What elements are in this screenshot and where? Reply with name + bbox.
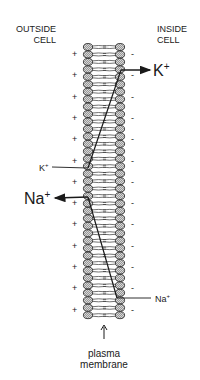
svg-text:-: -: [131, 177, 134, 187]
svg-text:+: +: [72, 49, 77, 59]
svg-text:+: +: [72, 283, 77, 293]
svg-text:+: +: [72, 70, 77, 80]
svg-text:-: -: [131, 198, 134, 208]
svg-text:+: +: [72, 219, 77, 229]
svg-text:+: +: [72, 262, 77, 272]
ion-charge: +: [44, 189, 50, 200]
membrane-diagram: OUTSIDE CELL INSIDE CELL +-+-+-+-+-+-+-+…: [0, 0, 200, 380]
svg-text:+: +: [72, 156, 77, 166]
svg-text:-: -: [131, 305, 134, 315]
svg-text:+: +: [72, 241, 77, 251]
ion-charge: +: [167, 293, 171, 299]
svg-text:-: -: [131, 113, 134, 123]
ion-symbol: Na: [155, 294, 167, 304]
caption-line2: membrane: [64, 360, 144, 370]
svg-text:-: -: [131, 92, 134, 102]
svg-text:+: +: [72, 113, 77, 123]
ion-charge: +: [164, 61, 170, 72]
ion-symbol: K: [153, 62, 164, 79]
k-entry-label: K+: [39, 162, 49, 173]
phospholipid-layers: [83, 44, 124, 319]
svg-text:-: -: [131, 49, 134, 59]
plasma-membrane-caption: plasma membrane: [64, 349, 144, 370]
svg-text:+: +: [72, 305, 77, 315]
svg-text:-: -: [131, 219, 134, 229]
svg-text:-: -: [131, 262, 134, 272]
ion-symbol: Na: [24, 190, 44, 207]
svg-text:-: -: [131, 241, 134, 251]
caption-line1: plasma: [64, 349, 144, 359]
na-entry-label: Na+: [155, 293, 170, 304]
ion-charge: +: [45, 162, 49, 168]
svg-text:+: +: [72, 198, 77, 208]
na-exit-label: Na+: [24, 190, 50, 207]
svg-text:-: -: [131, 156, 134, 166]
na-exit-arrow: [55, 197, 88, 198]
k-entry-leader: [52, 167, 88, 168]
k-exit-label: K+: [153, 62, 170, 79]
svg-text:-: -: [131, 134, 134, 144]
svg-text:+: +: [72, 177, 77, 187]
svg-text:+: +: [72, 92, 77, 102]
svg-text:-: -: [131, 283, 134, 293]
svg-text:-: -: [131, 70, 134, 80]
svg-text:+: +: [72, 134, 77, 144]
